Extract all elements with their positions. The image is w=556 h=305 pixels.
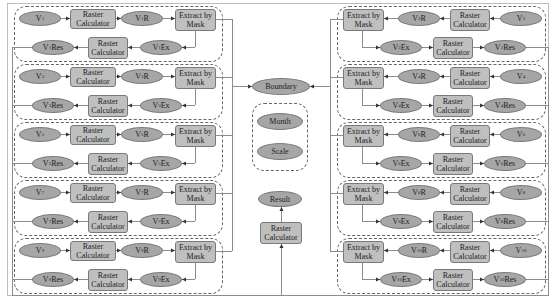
- arrowheads: [0, 0, 556, 305]
